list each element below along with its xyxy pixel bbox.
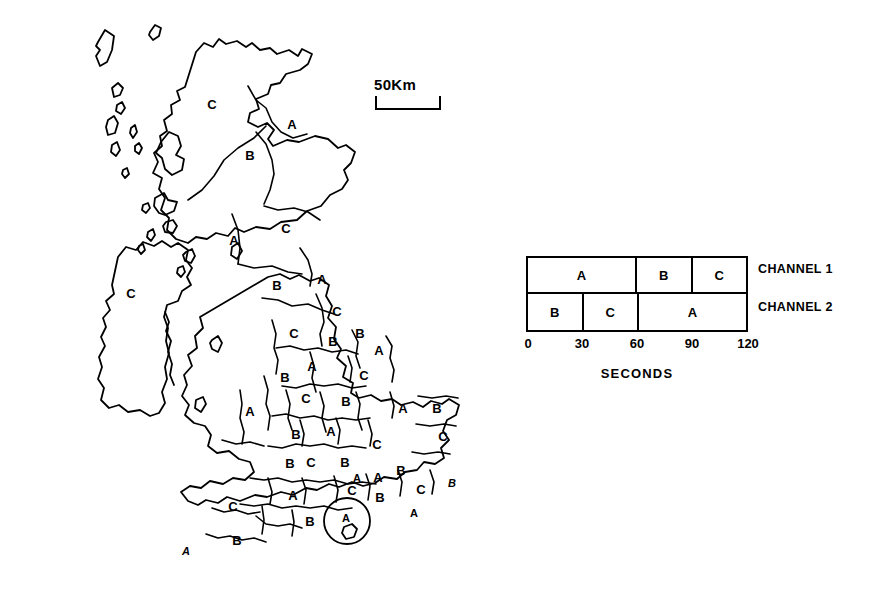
region-label: C (228, 499, 238, 514)
channel1-slot-b: B (637, 258, 693, 292)
boundary-ne-4 (276, 346, 358, 354)
region-label: B (448, 477, 456, 489)
region-label: A (353, 472, 361, 484)
boundary-ne-2 (316, 294, 324, 346)
region-label: A (245, 404, 255, 419)
islet-uist (106, 116, 118, 135)
region-label: A (373, 470, 383, 485)
region-label: B (375, 490, 384, 505)
islet-harris (116, 102, 125, 114)
islet-shetland (149, 25, 161, 40)
region-label: B (432, 401, 441, 416)
channel-row-1: A B C (528, 258, 746, 294)
region-label: B (291, 427, 300, 442)
region-label: B (340, 455, 349, 470)
channel2-slot-a: A (639, 294, 746, 330)
region-label: C (359, 368, 369, 383)
isle-of-wight-shape (342, 524, 357, 539)
boundary-s-3 (268, 478, 272, 504)
boundary-sc-7 (300, 248, 312, 286)
boundary-sc-5 (264, 206, 320, 220)
region-label: C (126, 286, 136, 301)
region-label: B (245, 148, 254, 163)
region-label: C (306, 455, 316, 470)
timing-grid: A B C B C A (526, 256, 748, 332)
uk-region-map: C A B C A B A C C C B A A C B C B A B A (0, 0, 500, 606)
channel1-slot-a: A (528, 258, 637, 292)
channel2-slot-c: C (584, 294, 640, 330)
region-label: B (328, 334, 337, 349)
time-axis: 0 30 60 90 120 (526, 336, 748, 356)
boundary-ne-3 (272, 320, 278, 374)
isle-of-mull (154, 193, 177, 215)
islet-small-2 (130, 125, 137, 138)
islet-barra (111, 142, 120, 156)
islet-arran (183, 249, 195, 263)
islet-jura (147, 229, 155, 241)
region-label: C (207, 97, 217, 112)
boundary-sc-1 (248, 86, 307, 138)
region-label: A (326, 424, 336, 439)
islet-anglesey (195, 397, 206, 412)
region-label: A (342, 512, 350, 524)
boundary-wales-3 (264, 376, 270, 430)
region-label: B (285, 456, 294, 471)
isle-of-man (210, 336, 222, 352)
region-label: A (181, 545, 190, 557)
boundary-s-12 (262, 506, 264, 534)
boundary-sc-2 (188, 126, 266, 200)
region-label: C (301, 391, 311, 406)
boundary-s-8 (430, 470, 434, 494)
scale-label: 50Km (372, 76, 482, 93)
boundary-s-6 (366, 474, 370, 500)
boundary-s-4 (302, 478, 306, 504)
region-label: A (317, 272, 327, 287)
region-label: B (341, 394, 350, 409)
channel2-slot-b: B (528, 294, 584, 330)
channel-row-2: B C A (528, 294, 746, 330)
boundary-ne-9 (386, 336, 394, 382)
islet-small-1 (135, 143, 142, 154)
region-label: B (355, 326, 364, 341)
boundary-ne-8 (348, 356, 352, 382)
islet-orkney-west (96, 30, 114, 66)
region-label: C (332, 304, 342, 319)
axis-title: SECONDS (526, 366, 748, 381)
scale-bracket-icon (375, 96, 441, 110)
figure-root: C A B C A B A C C C B A A C B C B A B A (0, 0, 896, 606)
region-label: A (398, 401, 408, 416)
islet-coll (142, 203, 150, 213)
scotland-mainland (153, 39, 355, 243)
channel-timing-diagram: A B C B C A CHANNEL 1 CHANNEL 2 0 30 60 … (496, 248, 888, 388)
region-label: C (347, 483, 357, 498)
boundary-ea-1 (418, 396, 458, 398)
region-label: A (410, 507, 418, 519)
channel-2-label: CHANNEL 2 (758, 300, 833, 314)
boundary-mid-2 (286, 390, 292, 430)
boundary-sc-6 (238, 264, 302, 274)
axis-tick-60: 60 (630, 336, 644, 351)
axis-tick-0: 0 (524, 336, 531, 351)
region-label: B (232, 533, 241, 548)
region-label: B (396, 463, 405, 478)
boundary-mid-8 (336, 418, 340, 444)
channel1-slot-c: C (693, 258, 747, 292)
region-label: C (438, 429, 448, 444)
axis-tick-120: 120 (737, 336, 759, 351)
isle-of-islay (163, 220, 177, 233)
region-label: C (416, 482, 426, 497)
boundary-mid-5 (390, 392, 394, 418)
region-label: A (229, 233, 239, 248)
region-label: C (372, 437, 382, 452)
region-label: A (287, 117, 297, 132)
region-label: B (305, 514, 314, 529)
islet-small-3 (122, 168, 129, 178)
boundary-mid-1 (272, 414, 370, 420)
boundary-mid-6 (268, 444, 366, 448)
axis-tick-30: 30 (575, 336, 589, 351)
region-boundaries (188, 86, 458, 542)
boundary-s-13 (292, 510, 294, 536)
region-label: C (289, 326, 299, 341)
axis-tick-90: 90 (685, 336, 699, 351)
boundary-wales-1 (240, 390, 244, 444)
